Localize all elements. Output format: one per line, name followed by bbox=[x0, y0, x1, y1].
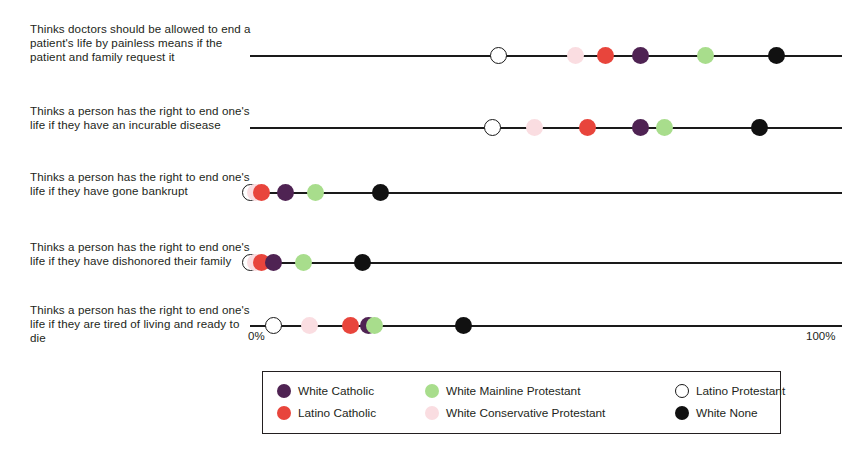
data-point bbox=[277, 184, 294, 201]
row-axis-2 bbox=[250, 116, 842, 140]
data-point bbox=[490, 47, 507, 64]
legend-item[interactable]: White None bbox=[675, 406, 785, 420]
row-axis-4 bbox=[250, 251, 842, 275]
legend-label: White Mainline Protestant bbox=[446, 384, 580, 398]
axis-tick-right: 100% bbox=[806, 330, 835, 342]
row-label-3: Thinks a person has the right to end one… bbox=[30, 170, 255, 198]
chart-row-1: Thinks doctors should be allowed to end … bbox=[0, 22, 862, 84]
legend-swatch-icon bbox=[425, 406, 439, 420]
data-point bbox=[567, 47, 584, 64]
chart-row-4: Thinks a person has the right to end one… bbox=[0, 240, 862, 290]
legend-swatch-icon bbox=[675, 384, 689, 398]
legend-item[interactable]: White Conservative Protestant bbox=[425, 406, 675, 420]
data-point bbox=[265, 254, 282, 271]
legend-item[interactable]: Latino Catholic bbox=[277, 406, 425, 420]
data-point bbox=[484, 119, 501, 136]
chart-row-3: Thinks a person has the right to end one… bbox=[0, 170, 862, 220]
axis-tick-labels: 0% 100% bbox=[0, 330, 862, 348]
legend-grid: White CatholicWhite Mainline ProtestantL… bbox=[263, 372, 780, 433]
row-label-1: Thinks doctors should be allowed to end … bbox=[30, 22, 255, 65]
legend-item[interactable]: White Mainline Protestant bbox=[425, 384, 675, 398]
data-point bbox=[579, 119, 596, 136]
row-axis-1 bbox=[250, 44, 842, 68]
dot-plot-chart: Thinks doctors should be allowed to end … bbox=[0, 0, 862, 463]
data-point bbox=[307, 184, 324, 201]
chart-row-2: Thinks a person has the right to end one… bbox=[0, 104, 862, 154]
data-point bbox=[253, 184, 270, 201]
data-point bbox=[354, 254, 371, 271]
axis-line-5 bbox=[250, 325, 842, 327]
data-point bbox=[372, 184, 389, 201]
row-label-4: Thinks a person has the right to end one… bbox=[30, 240, 255, 268]
data-point bbox=[656, 119, 673, 136]
chart-legend: White CatholicWhite Mainline ProtestantL… bbox=[262, 371, 781, 434]
legend-label: White Conservative Protestant bbox=[446, 406, 605, 420]
legend-label: White None bbox=[696, 406, 758, 420]
legend-swatch-icon bbox=[277, 384, 291, 398]
legend-swatch-icon bbox=[425, 384, 439, 398]
data-point bbox=[526, 119, 543, 136]
data-point bbox=[751, 119, 768, 136]
data-point bbox=[632, 119, 649, 136]
axis-line-4 bbox=[250, 262, 842, 264]
axis-line-1 bbox=[250, 55, 842, 57]
data-point bbox=[697, 47, 714, 64]
axis-tick-left: 0% bbox=[248, 330, 265, 342]
legend-item[interactable]: White Catholic bbox=[277, 384, 425, 398]
legend-swatch-icon bbox=[675, 406, 689, 420]
legend-label: Latino Catholic bbox=[298, 406, 376, 420]
legend-item[interactable]: Latino Protestant bbox=[675, 384, 785, 398]
legend-label: White Catholic bbox=[298, 384, 374, 398]
data-point bbox=[597, 47, 614, 64]
data-point bbox=[295, 254, 312, 271]
row-label-2: Thinks a person has the right to end one… bbox=[30, 104, 255, 132]
data-point bbox=[632, 47, 649, 64]
legend-label: Latino Protestant bbox=[696, 384, 785, 398]
data-point bbox=[768, 47, 785, 64]
row-axis-3 bbox=[250, 181, 842, 205]
legend-swatch-icon bbox=[277, 406, 291, 420]
axis-line-3 bbox=[250, 192, 842, 194]
